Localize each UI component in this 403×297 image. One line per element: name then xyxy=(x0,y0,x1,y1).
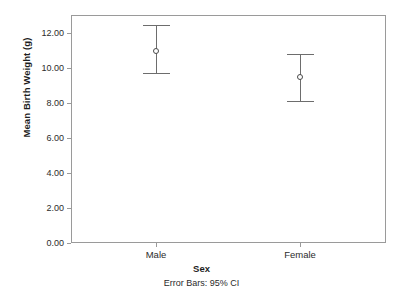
data-point-male xyxy=(153,48,159,54)
data-point-female xyxy=(297,74,303,80)
x-axis-title: Sex xyxy=(0,263,403,274)
x-tick-mark-female xyxy=(300,243,301,247)
errorbar-male-lower-cap xyxy=(143,73,170,74)
x-tick-label-male: Male xyxy=(116,249,196,260)
y-tick-label-0: 0.00 xyxy=(26,238,64,248)
y-tick-mark-12 xyxy=(67,33,71,34)
y-tick-mark-2 xyxy=(67,208,71,209)
y-tick-label-2: 2.00 xyxy=(26,203,64,213)
y-tick-label-4: 4.00 xyxy=(26,168,64,178)
chart-footnote: Error Bars: 95% CI xyxy=(0,278,403,288)
y-tick-label-12: 12.00 xyxy=(26,28,64,38)
y-tick-label-6: 6.00 xyxy=(26,133,64,143)
errorbar-female-lower-cap xyxy=(287,101,314,102)
y-tick-label-10: 10.00 xyxy=(26,63,64,73)
y-tick-mark-6 xyxy=(67,138,71,139)
y-tick-mark-8 xyxy=(67,103,71,104)
y-tick-mark-0 xyxy=(67,243,71,244)
plot-area xyxy=(71,15,386,243)
y-tick-mark-10 xyxy=(67,68,71,69)
y-tick-label-8: 8.00 xyxy=(26,98,64,108)
y-tick-mark-4 xyxy=(67,173,71,174)
x-tick-label-female: Female xyxy=(260,249,340,260)
errorbar-chart: Mean Birth Weight (g) 12.00 10.00 8.00 6… xyxy=(0,0,403,297)
x-tick-mark-male xyxy=(156,243,157,247)
